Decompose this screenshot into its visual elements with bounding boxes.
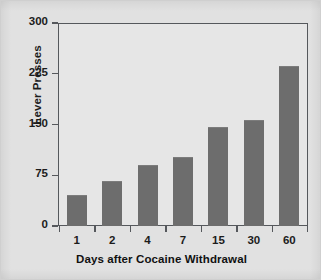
y-tick-mark-300	[52, 22, 58, 23]
x-tick-label-60: 60	[269, 234, 309, 246]
x-tick-mark-1	[94, 226, 95, 232]
x-tick-label-30: 30	[234, 234, 274, 246]
y-tick-mark-75	[52, 175, 58, 176]
x-tick-mark-6	[272, 226, 273, 232]
y-tick-label-75: 75	[35, 167, 48, 179]
x-tick-mark-7	[307, 226, 308, 232]
x-tick-mark-2	[130, 226, 131, 232]
x-axis-title: Days after Cocaine Withdrawal	[1, 253, 321, 265]
bar-30	[244, 120, 264, 226]
bar-2	[102, 181, 122, 226]
x-tick-mark-3	[165, 226, 166, 232]
bar-chart-figure: Lever Presses 300 225 150 75 0 124715306…	[0, 0, 321, 280]
y-tick-mark-0	[52, 225, 58, 226]
x-tick-mark-5	[236, 226, 237, 232]
x-tick-mark-4	[201, 226, 202, 232]
y-tick-label-300: 300	[29, 15, 48, 27]
y-tick-mark-150	[52, 124, 58, 125]
x-tick-label-7: 7	[163, 234, 203, 246]
y-tick-label-150: 150	[29, 117, 48, 129]
y-tick-mark-225	[52, 73, 58, 74]
bar-7	[173, 157, 193, 226]
x-tick-label-15: 15	[198, 234, 238, 246]
bar-series	[59, 23, 307, 226]
x-tick-label-4: 4	[128, 234, 168, 246]
y-tick-label-0: 0	[42, 218, 48, 230]
bar-60	[279, 66, 299, 226]
bar-1	[67, 195, 87, 226]
y-tick-label-225: 225	[29, 66, 48, 78]
x-tick-label-2: 2	[92, 234, 132, 246]
bar-4	[138, 165, 158, 226]
x-tick-label-1: 1	[57, 234, 97, 246]
bar-15	[208, 127, 228, 226]
x-tick-mark-0	[59, 226, 60, 232]
